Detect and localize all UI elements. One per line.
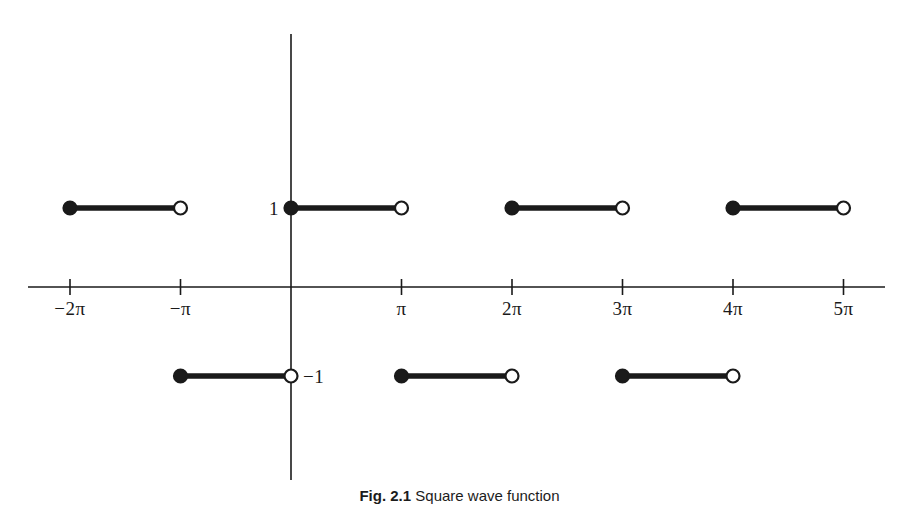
closed-endpoint-dot: [395, 370, 408, 383]
x-axis-tick-label: −2π: [54, 299, 85, 318]
open-endpoint-dot: [837, 202, 850, 215]
y-value-label-positive-one: 1: [269, 199, 279, 218]
closed-endpoint-dot: [64, 202, 77, 215]
closed-endpoint-dot: [174, 370, 187, 383]
x-axis-tick-label: 3π: [612, 299, 632, 318]
open-endpoint-dot: [395, 202, 408, 215]
x-axis-tick-label: −π: [170, 299, 191, 318]
x-axis-tick-label: π: [396, 299, 406, 318]
segment-endpoints-group: [64, 202, 851, 383]
figure-square-wave: −2π−ππ2π3π4π5π1−1 Fig. 2.1 Square wave f…: [0, 0, 919, 505]
plot-canvas: [0, 0, 919, 505]
figure-caption: Fig. 2.1 Square wave function: [0, 487, 919, 504]
closed-endpoint-dot: [285, 202, 298, 215]
closed-endpoint-dot: [727, 202, 740, 215]
axes-group: [28, 34, 885, 480]
open-endpoint-dot: [506, 370, 519, 383]
open-endpoint-dot: [174, 202, 187, 215]
wave-segments-group: [70, 208, 844, 376]
x-axis-tick-label: 4π: [723, 299, 743, 318]
y-value-label-negative-one: −1: [303, 367, 324, 386]
closed-endpoint-dot: [616, 370, 629, 383]
open-endpoint-dot: [616, 202, 629, 215]
x-axis-tick-label: 5π: [833, 299, 853, 318]
open-endpoint-dot: [285, 370, 298, 383]
figure-caption-label: Fig. 2.1: [359, 487, 411, 504]
figure-caption-text: Square wave function: [415, 487, 559, 504]
x-axis-tick-label: 2π: [502, 299, 522, 318]
open-endpoint-dot: [727, 370, 740, 383]
closed-endpoint-dot: [506, 202, 519, 215]
